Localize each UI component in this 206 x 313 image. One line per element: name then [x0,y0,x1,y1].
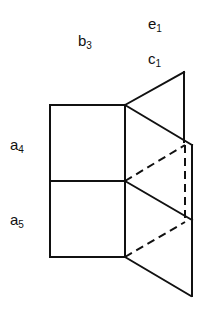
hidden-edge-2 [125,222,185,257]
diagonal-2 [125,181,192,220]
label-base: c [148,50,156,67]
label-sub: 5 [18,219,24,230]
label-e1: e1 [148,16,162,34]
label-c1: c1 [148,51,161,69]
label-sub: 3 [86,40,92,51]
label-sub: 4 [18,144,24,155]
diagonal-3 [125,257,191,296]
folded-net-diagram [0,0,206,313]
diagonal-1 [125,105,192,145]
label-b3: b3 [78,33,92,51]
label-sub: 1 [156,23,162,34]
triangle-top-edge [125,72,184,105]
label-a5: a5 [10,212,24,230]
label-a4: a4 [10,137,24,155]
label-sub: 1 [156,58,162,69]
hidden-edge-1 [125,145,185,181]
